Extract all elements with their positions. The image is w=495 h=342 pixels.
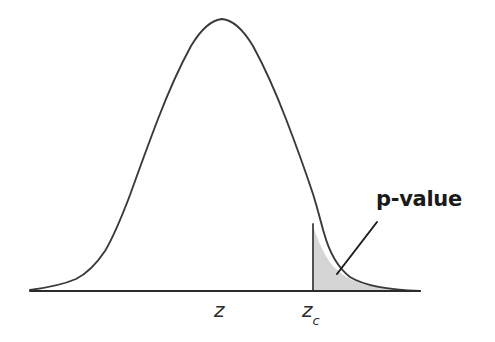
axis-label-z: z: [214, 300, 225, 320]
normal-curve-plot: [0, 0, 495, 342]
p-value-label: p-value: [376, 189, 462, 210]
axis-label-z-critical: zc: [302, 300, 320, 324]
normal-distribution-p-value-diagram: p-value z zc: [0, 0, 495, 342]
axis-label-z-critical-base: z: [302, 298, 313, 322]
bell-curve-outline: [30, 19, 420, 291]
axis-label-z-critical-subscript: c: [313, 313, 320, 328]
p-value-leader-line: [337, 222, 377, 274]
